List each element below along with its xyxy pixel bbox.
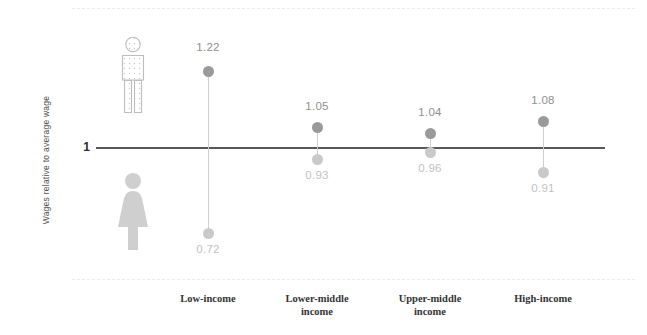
- data-point-men[interactable]: [312, 122, 323, 133]
- connector-line: [543, 121, 544, 172]
- x-axis-label-high-income: High-income: [478, 292, 608, 305]
- x-axis-label-line: High-income: [478, 292, 608, 305]
- x-axis-label-line: income: [365, 305, 495, 318]
- value-label-women: 0.91: [508, 182, 578, 194]
- value-label-women: 0.96: [395, 162, 465, 174]
- data-point-men[interactable]: [425, 128, 436, 139]
- value-label-men: 1.22: [173, 41, 243, 53]
- x-axis-label-line: Lower-middle: [252, 292, 382, 305]
- x-axis-label-lower-middle-income: Lower-middle income: [252, 292, 382, 318]
- data-point-women[interactable]: [425, 147, 436, 158]
- value-label-women: 0.72: [173, 243, 243, 255]
- value-label-women: 0.93: [282, 169, 352, 181]
- data-point-women[interactable]: [538, 167, 549, 178]
- x-axis-label-upper-middle-income: Upper-middle income: [365, 292, 495, 318]
- x-axis-label-line: income: [252, 305, 382, 318]
- data-point-men[interactable]: [203, 66, 214, 77]
- connector-line: [208, 71, 209, 233]
- value-label-men: 1.04: [395, 106, 465, 118]
- plot-area: 1.22 0.72 1.05 0.93 1.04 0.96 1.08 0.91: [0, 0, 647, 335]
- data-point-women[interactable]: [312, 154, 323, 165]
- data-point-women[interactable]: [203, 228, 214, 239]
- data-point-men[interactable]: [538, 116, 549, 127]
- value-label-men: 1.05: [282, 100, 352, 112]
- value-label-men: 1.08: [508, 94, 578, 106]
- wage-gap-chart: Wages relative to average wage 1 1.22 0.…: [0, 0, 647, 335]
- x-axis-label-line: Upper-middle: [365, 292, 495, 305]
